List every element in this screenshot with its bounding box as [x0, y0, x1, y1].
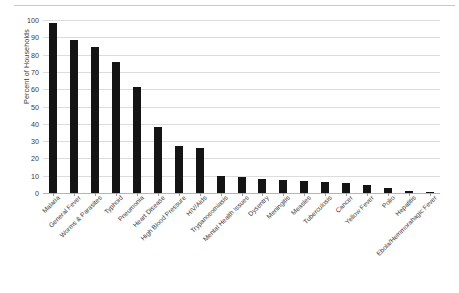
y-axis-tick-label: 10: [31, 171, 39, 180]
y-axis-tick-label: 40: [31, 119, 39, 128]
bar: [154, 127, 162, 193]
gridline: 100: [43, 20, 440, 21]
x-axis-category-label: Worms & Parasites: [58, 194, 103, 239]
bar: [258, 179, 266, 193]
y-axis-tick-label: 20: [31, 154, 39, 163]
bar-chart: Percent of Households 010203040506070809…: [0, 0, 459, 293]
x-axis-labels: MalariaGeneral FeverWorms & ParasitesTyp…: [43, 194, 440, 293]
y-axis-tick-label: 30: [31, 137, 39, 146]
bar: [196, 148, 204, 193]
gridline: 60: [43, 89, 440, 90]
bar: [300, 181, 308, 193]
y-axis-tick-label: 80: [31, 50, 39, 59]
top-divider: [14, 5, 455, 6]
y-axis-tick-label: 60: [31, 85, 39, 94]
bar: [49, 23, 57, 193]
bar: [342, 183, 350, 193]
bar: [175, 146, 183, 193]
gridline: 50: [43, 107, 440, 108]
bar: [279, 180, 287, 193]
y-axis-tick-label: 90: [31, 33, 39, 42]
bar: [217, 176, 225, 193]
bar: [363, 185, 371, 193]
x-axis-category-label: Polio: [380, 194, 396, 210]
y-axis-tick-label: 50: [31, 102, 39, 111]
gridline: 90: [43, 37, 440, 38]
bar: [70, 40, 78, 193]
x-axis-category-label: Trypanosomiasis: [189, 194, 229, 234]
y-axis-tick-label: 0: [35, 189, 39, 198]
gridline: 80: [43, 55, 440, 56]
bar: [238, 177, 246, 193]
gridline: 30: [43, 141, 440, 142]
gridline: 20: [43, 158, 440, 159]
plot-area: 0102030405060708090100: [43, 20, 440, 193]
bar: [91, 47, 99, 193]
gridline: 40: [43, 124, 440, 125]
y-axis-tick-label: 70: [31, 67, 39, 76]
bar: [112, 62, 120, 193]
bar: [321, 182, 329, 193]
bar: [133, 87, 141, 193]
y-axis-tick-label: 100: [27, 16, 39, 25]
gridline: 70: [43, 72, 440, 73]
